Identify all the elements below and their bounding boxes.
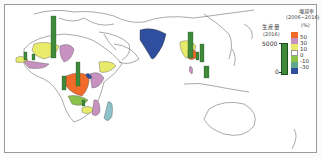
legend-production-title: 生産量 (262, 23, 280, 31)
tick-mark (279, 72, 282, 73)
bar-nigeria (51, 16, 56, 58)
legend-change-unit: (%) (301, 22, 310, 28)
legend-production-year: (2016) (263, 31, 280, 37)
class-label: -30 (300, 64, 309, 70)
swatch-lt-neg30 (291, 68, 298, 74)
country-india (140, 29, 166, 59)
production-scale-bar (281, 43, 288, 75)
production-max-tick: 5000 (262, 40, 277, 47)
legend-change-title: 増減率 (299, 7, 314, 14)
legend-change-period: (2006~2016) (286, 14, 320, 20)
tick-mark (279, 43, 282, 44)
